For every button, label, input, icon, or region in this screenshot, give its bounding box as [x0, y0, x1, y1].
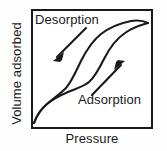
adsorption-arrow-icon [92, 60, 125, 95]
desorption-arrow-icon [53, 28, 86, 62]
y-axis-label: Volume adsorbed [9, 14, 24, 134]
adsorption-curve [34, 23, 148, 123]
isotherm-figure: Desorption Adsorption Pressure Volume ad… [0, 0, 167, 151]
adsorption-label: Adsorption [78, 93, 141, 106]
plot-curves [31, 9, 153, 129]
desorption-curve [34, 21, 148, 123]
x-axis-label: Pressure [31, 131, 153, 146]
desorption-label: Desorption [35, 13, 99, 26]
